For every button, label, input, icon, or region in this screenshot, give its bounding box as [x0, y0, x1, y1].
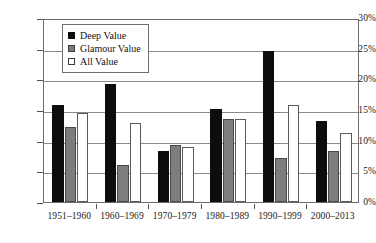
legend-swatch-icon: [68, 45, 75, 52]
x-axis-tick-label: 1980–1989: [201, 211, 254, 222]
y-axis-tick-mark: [37, 80, 43, 81]
bar: [117, 165, 128, 202]
legend-item-label: Deep Value: [80, 30, 126, 41]
x-axis-tick-mark: [96, 204, 97, 209]
legend-swatch-icon: [68, 58, 75, 65]
x-axis-tick-label: 1990–1999: [254, 211, 307, 222]
bar: [316, 121, 327, 202]
chart-legend: Deep ValueGlamour ValueAll Value: [62, 24, 149, 73]
bar: [288, 105, 299, 202]
y-axis-tick-mark: [37, 19, 43, 20]
y-axis-tick-label: 20%: [342, 75, 376, 85]
legend-item-label: All Value: [80, 56, 118, 67]
x-axis-tick-label: 1970–1979: [148, 211, 201, 222]
x-axis-tick-mark: [254, 204, 255, 209]
bar: [105, 84, 116, 202]
bar: [170, 145, 181, 202]
y-axis-tick-label: 25%: [342, 45, 376, 55]
y-axis-tick-mark: [37, 142, 43, 143]
x-axis-tick-label: 2000–2013: [306, 211, 359, 222]
legend-item-label: Glamour Value: [80, 43, 141, 54]
y-axis-tick-mark: [37, 50, 43, 51]
gridline: [44, 112, 358, 113]
legend-item: All Value: [68, 55, 141, 68]
bar-chart: Deep ValueGlamour ValueAll Value 0%5%10%…: [0, 0, 376, 243]
plot-area: Deep ValueGlamour ValueAll Value: [43, 19, 359, 203]
bar: [210, 109, 221, 202]
bar: [235, 119, 246, 202]
y-axis-tick-mark: [37, 203, 43, 204]
bar: [158, 151, 169, 202]
bar: [328, 151, 339, 202]
x-axis-tick-label: 1951–1960: [43, 211, 96, 222]
legend-item: Glamour Value: [68, 42, 141, 55]
gridline: [44, 173, 358, 174]
y-axis-tick-label: 30%: [342, 14, 376, 24]
bar: [275, 158, 286, 202]
bar: [182, 147, 193, 202]
legend-item: Deep Value: [68, 29, 141, 42]
bar: [340, 133, 351, 202]
bar: [77, 113, 88, 202]
y-axis-tick-mark: [37, 172, 43, 173]
x-axis-tick-label: 1960–1969: [96, 211, 149, 222]
bar: [52, 105, 63, 202]
y-axis-tick-label: 15%: [342, 106, 376, 116]
x-axis-tick-mark: [201, 204, 202, 209]
x-axis-tick-mark: [148, 204, 149, 209]
gridline: [44, 81, 358, 82]
bar: [223, 119, 234, 202]
gridline: [44, 143, 358, 144]
y-axis-tick-mark: [37, 111, 43, 112]
bar: [263, 51, 274, 202]
x-axis-tick-mark: [306, 204, 307, 209]
bar: [130, 123, 141, 202]
legend-swatch-icon: [68, 32, 75, 39]
bar: [65, 127, 76, 202]
